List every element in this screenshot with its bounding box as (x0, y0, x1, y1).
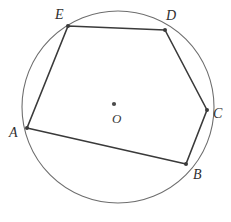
center-label-O: O (112, 112, 121, 125)
vertex-label-E: E (55, 8, 64, 22)
geometry-figure: A B C D E O (0, 0, 231, 222)
vertex-label-D: D (166, 9, 176, 23)
pentagon-ABCDE (27, 26, 207, 164)
vertex-dot-D (163, 28, 167, 32)
vertex-dot-B (184, 162, 188, 166)
circumscribed-circle (22, 11, 214, 203)
center-dot-O (112, 102, 116, 106)
vertex-dot-C (205, 108, 209, 112)
vertex-dot-E (66, 24, 70, 28)
vertex-label-B: B (193, 168, 202, 182)
vertex-dot-A (25, 126, 29, 130)
vertex-label-A: A (9, 126, 18, 140)
vertex-label-C: C (213, 107, 222, 121)
